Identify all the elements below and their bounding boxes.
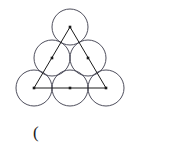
caption-text: ( xyxy=(33,124,39,141)
dot-bottom-mid xyxy=(69,87,72,90)
figure-canvas: ( xyxy=(0,0,189,153)
circle-packing-diagram xyxy=(0,0,189,153)
dot-middle-left xyxy=(51,57,54,60)
dot-bottom-right xyxy=(105,87,108,90)
dot-top xyxy=(69,26,72,29)
diagram-background xyxy=(0,0,189,153)
dot-bottom-left xyxy=(33,87,36,90)
dot-middle-right xyxy=(87,57,90,60)
